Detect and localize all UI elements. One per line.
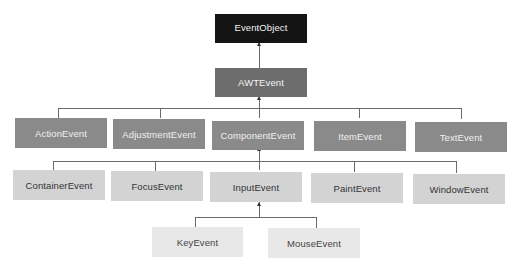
node-componentevent: ComponentEvent — [212, 121, 304, 150]
node-inputevent: InputEvent — [210, 172, 302, 202]
connector-level3-bus — [53, 161, 457, 162]
connector-adjustmentevent — [160, 108, 161, 118]
node-focusevent: FocusEvent — [111, 171, 203, 201]
node-eventobject: EventObject — [215, 14, 307, 43]
connector-keyevent — [195, 217, 196, 227]
connector-itemevent — [359, 108, 360, 118]
node-containerevent: ContainerEvent — [13, 170, 105, 200]
connector-level4-bus — [195, 217, 316, 218]
connector-actionevent — [58, 108, 59, 118]
node-windowevent: WindowEvent — [413, 174, 505, 204]
connector-mouseevent — [316, 217, 317, 228]
node-actionevent: ActionEvent — [15, 118, 107, 148]
node-textevent: TextEvent — [415, 122, 507, 152]
node-mouseevent: MouseEvent — [268, 228, 360, 258]
connector-containerevent — [53, 161, 54, 170]
connector-paintevent — [354, 162, 355, 172]
connector-textevent — [461, 108, 462, 119]
connector-level2-bus — [58, 108, 461, 109]
connector-focusevent — [155, 161, 156, 171]
node-adjustmentevent: AdjustmentEvent — [113, 119, 205, 149]
arrowhead-icon — [257, 202, 261, 206]
connector-windowevent — [456, 162, 457, 173]
node-paintevent: PaintEvent — [311, 173, 403, 203]
node-itemevent: ItemEvent — [314, 121, 406, 151]
node-awtevent: AWTEvent — [215, 68, 307, 97]
node-keyevent: KeyEvent — [152, 227, 243, 257]
connector-awtevent-to-eventobject — [259, 43, 260, 68]
